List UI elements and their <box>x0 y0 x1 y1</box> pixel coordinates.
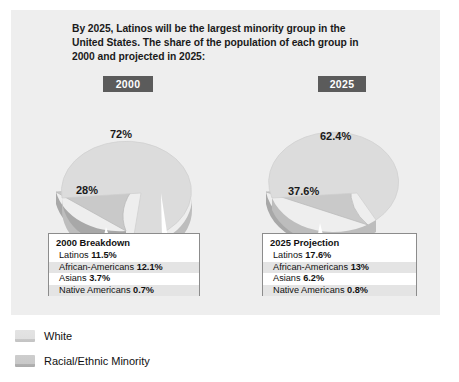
legend-item-minority: Racial/Ethnic Minority <box>15 355 150 367</box>
breakdown-box-2025: 2025 Projection Latinos 17.6% African-Am… <box>262 233 417 296</box>
breakdown-row-value: 6.2% <box>303 273 324 283</box>
pie-2000-svg <box>48 92 238 242</box>
legend-label-white: White <box>44 330 72 342</box>
year-badge-2025: 2025 <box>318 76 366 92</box>
breakdown-row: Native Americans 0.8% <box>263 285 416 297</box>
legend-label-minority: Racial/Ethnic Minority <box>44 355 150 367</box>
breakdown-row: Native Americans 0.7% <box>49 285 199 297</box>
breakdown-row: Latinos 17.6% <box>263 250 416 262</box>
breakdown-row-name: Native Americans <box>273 285 345 295</box>
breakdown-row-value: 0.8% <box>347 285 368 295</box>
breakdown-row-value: 17.6% <box>305 250 331 260</box>
breakdown-row: Asians 3.7% <box>49 273 199 285</box>
breakdown-row-name: Asians <box>273 273 301 283</box>
minority-swatch-icon <box>15 355 35 367</box>
breakdown-row-value: 12.1% <box>137 262 163 272</box>
pie-2025-svg <box>258 92 448 242</box>
breakdown-row-name: African-Americans <box>59 262 134 272</box>
breakdown-row-name: Native Americans <box>59 285 131 295</box>
breakdown-row-value: 11.5% <box>91 250 117 260</box>
breakdown-title-2025: 2025 Projection <box>263 234 416 250</box>
legend-item-white: White <box>15 330 72 342</box>
white-swatch-icon <box>15 330 35 342</box>
breakdown-row: African-Americans 13% <box>263 262 416 274</box>
infographic-root: By 2025, Latinos will be the largest min… <box>0 0 459 382</box>
breakdown-row-value: 3.7% <box>89 273 110 283</box>
pie-label-white-2000: 72% <box>110 128 132 140</box>
breakdown-row-name: Latinos <box>273 250 303 260</box>
breakdown-row-value: 13% <box>351 262 369 272</box>
breakdown-row: African-Americans 12.1% <box>49 262 199 274</box>
breakdown-title-2000: 2000 Breakdown <box>49 234 199 250</box>
pie-chart-2025: 62.4% 37.6% <box>258 92 448 242</box>
pie-label-minority-2000: 28% <box>76 184 98 196</box>
breakdown-row-name: Asians <box>59 273 87 283</box>
page-title: By 2025, Latinos will be the largest min… <box>72 22 372 65</box>
breakdown-row: Asians 6.2% <box>263 273 416 285</box>
breakdown-row: Latinos 11.5% <box>49 250 199 262</box>
year-badge-2000: 2000 <box>103 76 153 92</box>
pie-chart-2000: 72% 28% <box>48 92 238 242</box>
breakdown-row-name: Latinos <box>59 250 89 260</box>
pie-label-white-2025: 62.4% <box>320 130 351 142</box>
breakdown-row-name: African-Americans <box>273 262 348 272</box>
breakdown-row-value: 0.7% <box>133 285 154 295</box>
breakdown-box-2000: 2000 Breakdown Latinos 11.5% African-Ame… <box>48 233 200 296</box>
pie-label-minority-2025: 37.6% <box>288 185 319 197</box>
